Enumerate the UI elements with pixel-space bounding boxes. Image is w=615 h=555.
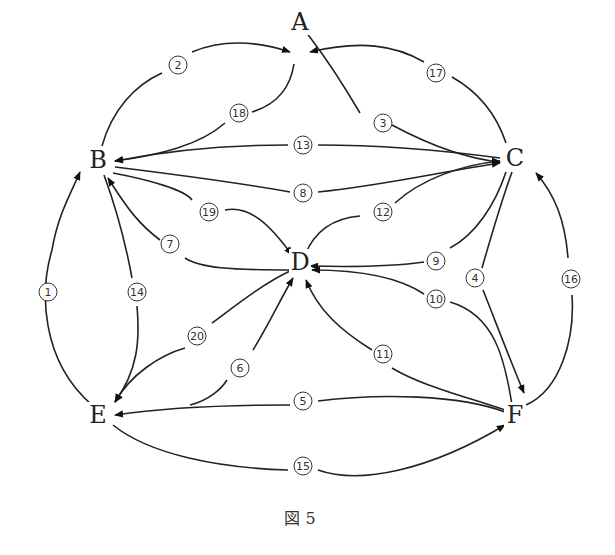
edge-badge-8: 8 [294, 184, 312, 202]
edge-badge-6: 6 [231, 359, 249, 377]
edge-badge-1: 1 [39, 283, 57, 301]
badge-number: 15 [296, 460, 310, 473]
edge-badge-13: 13 [294, 136, 312, 154]
nodes: ABCDEF [87, 8, 526, 429]
edge-2 [102, 43, 290, 146]
node-c: C [506, 144, 524, 172]
node-e: E [89, 401, 107, 429]
badge-number: 20 [190, 330, 204, 343]
badge-number: 7 [167, 238, 174, 251]
edge-badge-17: 17 [427, 64, 445, 82]
edge-badge-20: 20 [188, 327, 206, 345]
node-f: F [507, 401, 524, 429]
badge-number: 17 [429, 67, 443, 80]
edge-badge-18: 18 [230, 104, 248, 122]
figure-caption: 図 5 [284, 509, 315, 528]
badge-number: 10 [429, 293, 443, 306]
edge-badge-7: 7 [161, 235, 179, 253]
edge-badge-16: 16 [562, 270, 580, 288]
badge-number: 14 [130, 286, 144, 299]
edge-badge-3: 3 [374, 114, 392, 132]
badge-number: 13 [296, 139, 310, 152]
badge-number: 19 [202, 206, 216, 219]
edge-badge-10: 10 [427, 290, 445, 308]
edge-badge-12: 12 [374, 203, 392, 221]
edge-9 [310, 172, 506, 267]
edge-badge-14: 14 [128, 283, 146, 301]
edge-badge-9: 9 [427, 252, 445, 270]
graph-canvas: 1234567891011121314151617181920 ABCDEF 図… [0, 0, 615, 555]
badge-number: 12 [376, 206, 390, 219]
badge-number: 3 [380, 117, 387, 130]
edge-badge-5: 5 [294, 392, 312, 410]
node-a: A [290, 8, 309, 36]
edge-badge-4: 4 [466, 269, 484, 287]
badge-number: 9 [433, 255, 440, 268]
badge-number: 6 [237, 362, 244, 375]
edge-12 [305, 161, 500, 255]
edge-badge-15: 15 [294, 457, 312, 475]
edge-badge-19: 19 [200, 203, 218, 221]
edge-17 [310, 45, 506, 143]
badge-number: 1 [45, 286, 52, 299]
badge-number: 2 [175, 59, 182, 72]
badge-number: 16 [564, 273, 578, 286]
badge-number: 18 [232, 107, 246, 120]
edge-11 [306, 280, 505, 410]
directed-graph-figure: 1234567891011121314151617181920 ABCDEF 図… [0, 0, 615, 555]
edge-18 [115, 64, 294, 161]
badge-number: 8 [300, 187, 307, 200]
badge-number: 5 [300, 395, 307, 408]
edge-badge-11: 11 [374, 345, 392, 363]
edge-badge-2: 2 [169, 56, 187, 74]
node-b: B [89, 146, 107, 174]
badge-number: 11 [376, 348, 390, 361]
edge-6 [190, 278, 293, 405]
node-d: D [290, 248, 309, 276]
edge-10 [312, 270, 512, 405]
badge-number: 4 [472, 272, 479, 285]
edge-16 [526, 173, 572, 405]
